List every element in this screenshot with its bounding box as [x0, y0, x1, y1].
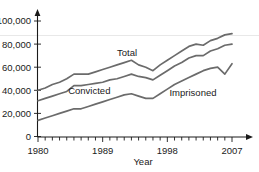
series-label-total: Total — [117, 47, 137, 58]
x-axis-title: Year — [133, 156, 152, 167]
series-label-convicted: Convicted — [68, 85, 110, 96]
y-tick-label-80000: 80,000 — [2, 39, 31, 50]
y-tick-label-0: 0 — [26, 131, 31, 142]
y-tick-label-60000: 60,000 — [2, 62, 31, 73]
series-label-imprisoned: Imprisoned — [169, 87, 216, 98]
x-tick-label-1989: 1989 — [92, 145, 113, 156]
y-tick-label-40000: 40,000 — [2, 85, 31, 96]
x-tick-label-1980: 1980 — [27, 145, 48, 156]
x-tick-label-1998: 1998 — [157, 145, 178, 156]
y-tick-label-20000: 20,000 — [2, 108, 31, 119]
line-chart: 020,00040,00060,00080,000100,000 1980198… — [0, 0, 259, 172]
x-tick-label-2007: 2007 — [221, 145, 242, 156]
chart-container: 020,00040,00060,00080,000100,000 1980198… — [0, 0, 259, 172]
y-tick-label-100000: 100,000 — [0, 15, 31, 26]
